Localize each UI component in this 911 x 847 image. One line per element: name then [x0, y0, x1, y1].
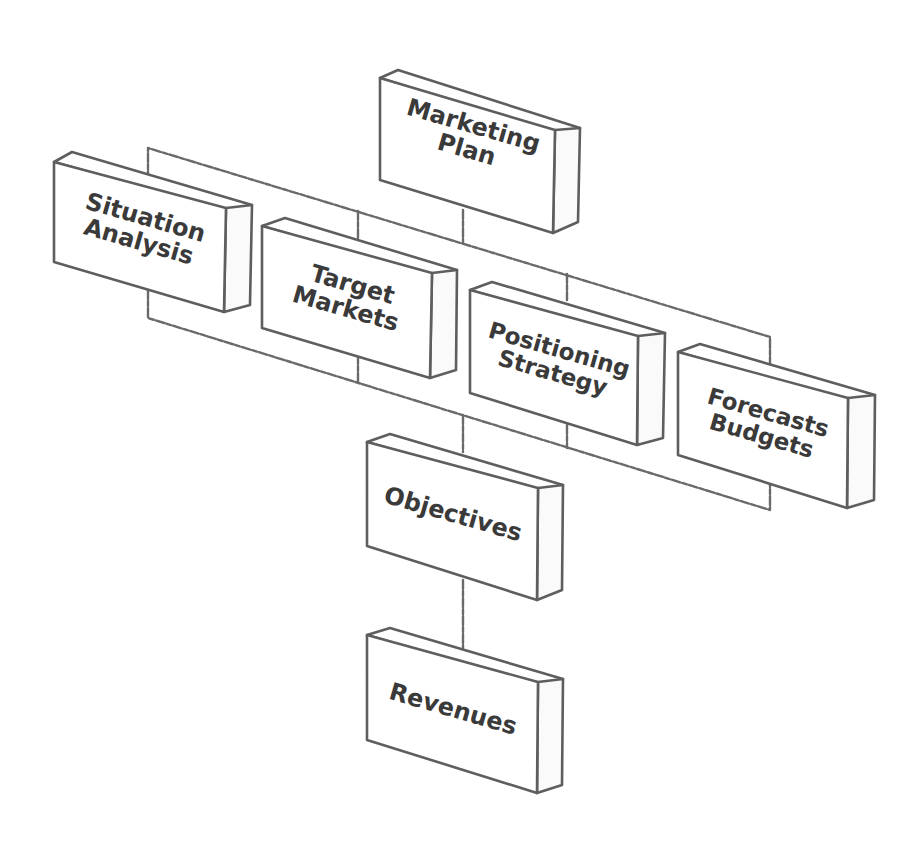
- marketing-plan-diagram: Marketing Plan Situation Analysis Target…: [0, 0, 911, 847]
